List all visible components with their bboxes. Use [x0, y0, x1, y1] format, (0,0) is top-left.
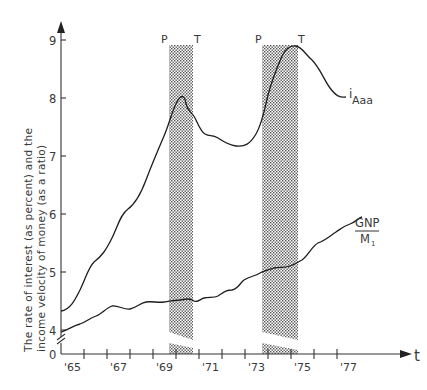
x-tick-71: '71 — [202, 361, 219, 374]
y-tick-0: 0 — [49, 348, 56, 362]
velocity-label-numerator: GNP — [355, 216, 380, 230]
shaded-region-1973-75 — [262, 45, 298, 354]
trough-label-1: T — [193, 33, 201, 46]
y-tick-6: 6 — [49, 208, 56, 222]
interest-rate-label: i Aaa — [349, 87, 373, 107]
chart-svg: P T P T 9 8 7 6 5 4 0 The rate of intere… — [0, 0, 427, 390]
y-tick-8: 8 — [49, 92, 56, 106]
y-tick-5: 5 — [49, 266, 56, 280]
y-tick-9: 9 — [49, 34, 56, 48]
x-tick-69: '69 — [156, 361, 173, 374]
x-axis-letter-t: t — [414, 347, 420, 365]
velocity-label-denominator-sub: 1 — [371, 240, 375, 248]
shaded-region-1969-70 — [169, 45, 193, 354]
y-tick-7: 7 — [49, 150, 56, 164]
x-tick-77: '77 — [340, 361, 357, 374]
peak-label-1: P — [161, 33, 168, 46]
x-tick-65: '65 — [64, 361, 81, 374]
interest-rate-curve — [61, 46, 346, 311]
peak-label-2: P — [255, 33, 262, 46]
trough-label-2: T — [297, 33, 305, 46]
y-axis-title: The rate of interest (as percent) and th… — [22, 128, 47, 353]
y-axis-title-line2: income velocity of money (as a ratio) — [35, 145, 47, 352]
velocity-label: GNP M 1 — [355, 216, 380, 248]
velocity-curve — [61, 217, 362, 332]
velocity-label-denominator: M — [360, 232, 370, 246]
x-tick-67: '67 — [110, 361, 127, 374]
y-axis — [57, 21, 66, 354]
interest-label-sub: Aaa — [352, 94, 373, 107]
x-tick-75: '75 — [294, 361, 311, 374]
chart-container: P T P T 9 8 7 6 5 4 0 The rate of intere… — [0, 0, 427, 390]
y-tick-4: 4 — [49, 324, 56, 338]
x-axis — [61, 349, 412, 359]
x-tick-73: '73 — [248, 361, 265, 374]
y-axis-title-line1: The rate of interest (as percent) and th… — [22, 128, 34, 353]
